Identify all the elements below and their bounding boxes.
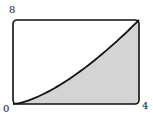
origin-label: 0 bbox=[3, 104, 9, 114]
x-max-label: 4 bbox=[142, 101, 148, 111]
shaded-area bbox=[13, 20, 139, 104]
chart-plot bbox=[0, 0, 153, 118]
y-max-label: 8 bbox=[9, 5, 15, 15]
